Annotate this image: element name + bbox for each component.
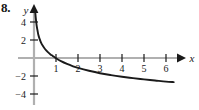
x-axis-label: x (189, 52, 195, 64)
y-axis-arrow-icon (30, 4, 39, 13)
y-tick-label-2: 2 (21, 35, 26, 46)
figure-container: 8. 1 2 3 4 5 6 (0, 0, 199, 110)
x-tick-label-6: 6 (164, 63, 169, 74)
y-tick-label-neg2: −2 (15, 71, 26, 82)
y-tick-label-neg4: −4 (15, 89, 26, 100)
graph-plot: 1 2 3 4 5 6 4 2 −2 −4 y x (0, 0, 199, 110)
x-tick-label-4: 4 (120, 63, 125, 74)
y-axis-label: y (23, 4, 29, 16)
y-tick-label-4: 4 (21, 17, 26, 28)
x-axis-arrow-icon (177, 54, 186, 63)
x-tick-label-1: 1 (54, 63, 59, 74)
x-tick-label-5: 5 (142, 63, 147, 74)
